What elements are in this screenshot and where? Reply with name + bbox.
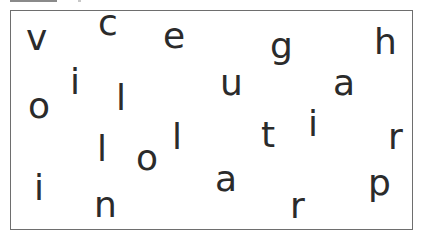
puzzle-letter-i: i (308, 106, 318, 142)
puzzle-letter-a: a (215, 161, 237, 197)
puzzle-letter-i: i (34, 170, 44, 206)
puzzle-letter-l: l (116, 80, 126, 116)
letter-puzzle-box (10, 10, 413, 230)
puzzle-letter-o: o (136, 140, 158, 176)
puzzle-letter-u: u (220, 65, 243, 101)
puzzle-letter-e: e (163, 18, 185, 54)
puzzle-letter-i: i (70, 64, 80, 100)
puzzle-letter-p: p (368, 165, 391, 201)
puzzle-letter-r: r (290, 188, 305, 224)
puzzle-letter-n: n (94, 187, 117, 223)
puzzle-letter-g: g (270, 28, 293, 64)
puzzle-letter-h: h (374, 24, 397, 60)
puzzle-letter-t: t (261, 117, 275, 153)
puzzle-letter-v: v (26, 20, 47, 56)
cropped-top-mark (78, 0, 81, 2)
cropped-top-line (10, 0, 57, 2)
puzzle-letter-o: o (28, 88, 50, 124)
puzzle-letter-a: a (333, 65, 355, 101)
puzzle-letter-c: c (98, 5, 118, 41)
puzzle-letter-l: l (97, 131, 107, 167)
puzzle-letter-l: l (172, 119, 182, 155)
puzzle-letter-r: r (388, 119, 403, 155)
